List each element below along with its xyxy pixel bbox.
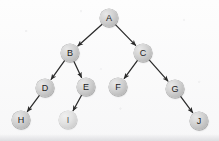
node-layer: ABCDEFGHIJ (0, 0, 219, 141)
tree-node-i[interactable]: I (59, 111, 77, 129)
tree-node-label-j: J (197, 117, 202, 126)
tree-node-b[interactable]: B (61, 44, 79, 62)
tree-node-a[interactable]: A (100, 9, 118, 27)
tree-node-label-d: D (42, 84, 49, 93)
tree-node-h[interactable]: H (12, 111, 30, 129)
tree-node-label-i: I (67, 116, 70, 125)
tree-node-g[interactable]: G (166, 80, 184, 98)
tree-node-label-c: C (140, 49, 147, 58)
tree-node-label-g: G (171, 85, 178, 94)
tree-node-d[interactable]: D (36, 79, 54, 97)
tree-node-c[interactable]: C (134, 44, 152, 62)
tree-node-label-h: H (18, 116, 25, 125)
tree-diagram-canvas: ABCDEFGHIJ (0, 0, 219, 141)
tree-node-f[interactable]: F (109, 78, 127, 96)
tree-node-e[interactable]: E (77, 78, 95, 96)
tree-node-label-a: A (106, 14, 112, 23)
tree-node-label-f: F (115, 83, 121, 92)
tree-node-j[interactable]: J (190, 112, 208, 130)
tree-node-label-e: E (83, 83, 89, 92)
tree-node-label-b: B (67, 49, 73, 58)
